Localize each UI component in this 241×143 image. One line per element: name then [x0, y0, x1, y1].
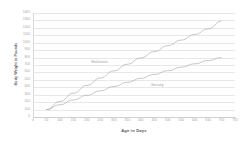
- series-label-jersey: Jersey: [151, 82, 164, 87]
- series-container: [33, 13, 235, 117]
- x-axis-tick-mark: [222, 117, 223, 119]
- y-axis-tick: 1400: [13, 11, 30, 14]
- plot-area: Holstein Jersey: [33, 13, 235, 117]
- x-axis-tick-labels: 0501001502002503003504004505005506006507…: [33, 119, 235, 127]
- y-axis-tick: 100: [13, 108, 30, 111]
- x-axis-tick-mark: [114, 117, 115, 119]
- x-axis-tick-mark: [46, 117, 47, 119]
- y-axis-tick: 200: [13, 101, 30, 104]
- x-axis-tick: 750: [227, 119, 241, 122]
- y-axis-tick: 1300: [13, 19, 30, 22]
- y-axis-tick: 1100: [13, 34, 30, 37]
- y-axis-tick: 300: [13, 93, 30, 96]
- growth-chart: Body Weight in Pounds 010020030040050060…: [0, 0, 241, 143]
- y-axis-tick: 1200: [13, 26, 30, 29]
- y-axis-tick: 700: [13, 63, 30, 66]
- x-axis-tick-mark: [181, 117, 182, 119]
- series-line-holstein: [46, 21, 221, 109]
- x-axis-title: Age in Days: [33, 128, 235, 133]
- x-axis-tick-mark: [154, 117, 155, 119]
- x-axis-tick-mark: [168, 117, 169, 119]
- x-axis-tick-mark: [60, 117, 61, 119]
- x-axis-tick-mark: [141, 117, 142, 119]
- x-axis-tick-mark: [235, 117, 236, 119]
- x-axis-tick-mark: [33, 117, 34, 119]
- y-axis-tick: 500: [13, 78, 30, 81]
- y-axis-tick: 1000: [13, 41, 30, 44]
- series-label-holstein: Holstein: [91, 59, 107, 64]
- y-axis-tick: 600: [13, 71, 30, 74]
- x-axis-tick-mark: [100, 117, 101, 119]
- y-axis-tick: 900: [13, 49, 30, 52]
- x-axis-tick-mark: [208, 117, 209, 119]
- x-axis-tick-mark: [73, 117, 74, 119]
- y-axis-tick: 400: [13, 86, 30, 89]
- y-axis-tick: 800: [13, 56, 30, 59]
- x-axis-tick-mark: [127, 117, 128, 119]
- x-axis-tick-mark: [87, 117, 88, 119]
- series-line-jersey: [46, 58, 221, 110]
- x-axis-tick-mark: [195, 117, 196, 119]
